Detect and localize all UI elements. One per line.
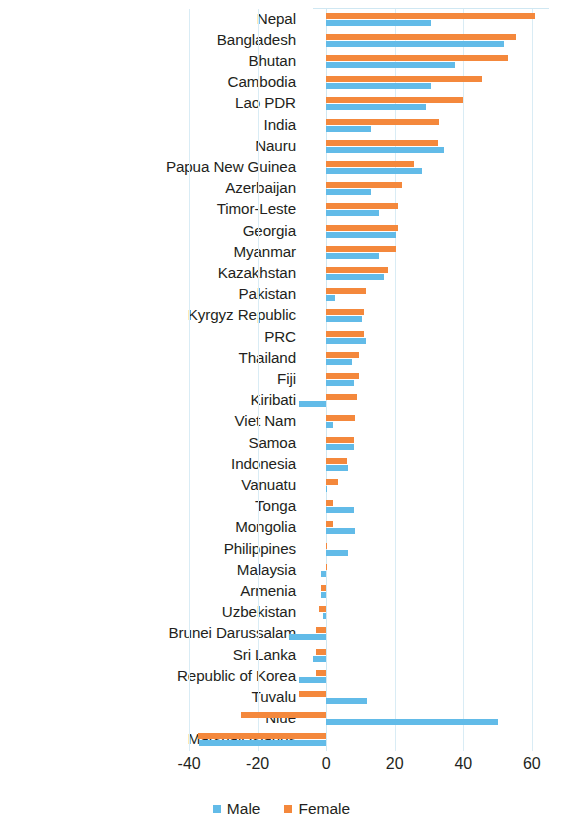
male-bar xyxy=(313,656,327,662)
female-bar xyxy=(326,76,482,82)
male-bar xyxy=(326,274,384,280)
male-bar xyxy=(326,359,352,365)
male-bar xyxy=(326,338,365,344)
male-bar xyxy=(323,613,326,619)
male-bar xyxy=(326,189,371,195)
legend-item[interactable]: Male xyxy=(213,800,261,818)
male-bar xyxy=(326,210,379,216)
female-bar xyxy=(326,97,463,103)
bar-row xyxy=(172,733,549,747)
female-bar xyxy=(326,543,327,549)
bar-row xyxy=(172,521,549,535)
male-bar xyxy=(326,41,504,47)
female-bar xyxy=(326,521,333,527)
bar-row xyxy=(172,76,549,90)
male-bar xyxy=(326,232,396,238)
male-bar xyxy=(299,401,326,407)
male-bar xyxy=(326,719,497,725)
female-bar xyxy=(326,373,359,379)
female-bar xyxy=(316,649,326,655)
female-bar xyxy=(326,34,516,40)
bar-row xyxy=(172,352,549,366)
bar-row xyxy=(172,394,549,408)
bar-row xyxy=(172,543,549,557)
female-bar xyxy=(299,691,326,697)
x-axis-tick-label: -40 xyxy=(178,755,201,773)
male-bar xyxy=(326,444,353,450)
bar-row xyxy=(172,331,549,345)
male-bar xyxy=(326,316,362,322)
female-bar xyxy=(326,564,327,570)
female-bar xyxy=(326,288,365,294)
male-bar xyxy=(326,465,348,471)
female-bar xyxy=(326,479,338,485)
bar-row xyxy=(172,119,549,133)
male-bar xyxy=(326,147,444,153)
female-bar xyxy=(316,627,326,633)
bar-row xyxy=(172,182,549,196)
female-bar xyxy=(326,458,347,464)
legend-label: Male xyxy=(227,800,261,818)
female-bar xyxy=(316,670,326,676)
bar-row xyxy=(172,649,549,663)
female-bar xyxy=(326,119,439,125)
bar-row xyxy=(172,161,549,175)
chart-legend: MaleFemale xyxy=(0,800,563,818)
male-bar xyxy=(321,571,326,577)
female-bar xyxy=(326,331,364,337)
bar-row xyxy=(172,670,549,684)
bar-row xyxy=(172,691,549,705)
male-bar xyxy=(326,168,422,174)
female-bar xyxy=(326,394,357,400)
male-bar xyxy=(326,422,333,428)
x-axis-tick-label: 0 xyxy=(322,755,331,773)
female-bar xyxy=(326,161,413,167)
male-bar xyxy=(326,104,425,110)
male-bar xyxy=(326,62,455,68)
value-axis: -40-200204060 xyxy=(313,755,549,781)
female-bar xyxy=(326,203,398,209)
female-bar xyxy=(326,437,353,443)
bar-row xyxy=(172,309,549,323)
male-bar xyxy=(299,677,326,683)
female-bar xyxy=(326,246,396,252)
female-bar xyxy=(319,606,326,612)
male-bar xyxy=(326,550,348,556)
female-bar xyxy=(326,55,508,61)
female-bar xyxy=(326,267,388,273)
plot-inner xyxy=(172,9,549,751)
female-bar xyxy=(321,585,326,591)
bar-row xyxy=(172,500,549,514)
male-bar xyxy=(326,253,379,259)
bar-row xyxy=(172,627,549,641)
female-bar xyxy=(241,712,327,718)
bar-row xyxy=(172,712,549,726)
bar-row xyxy=(172,458,549,472)
male-bar xyxy=(326,528,355,534)
male-bar xyxy=(326,380,353,386)
x-axis-tick-label: 40 xyxy=(454,755,472,773)
bar-row xyxy=(172,564,549,578)
bar-row xyxy=(172,140,549,154)
plot-area xyxy=(313,8,549,751)
female-bar xyxy=(326,13,535,19)
male-bar xyxy=(326,83,431,89)
female-bar xyxy=(326,140,437,146)
bar-row xyxy=(172,97,549,111)
bar-row xyxy=(172,288,549,302)
female-legend-swatch xyxy=(284,805,292,813)
bar-row xyxy=(172,225,549,239)
male-bar xyxy=(321,592,326,598)
bar-row xyxy=(172,246,549,260)
male-legend-swatch xyxy=(213,805,221,813)
bar-row xyxy=(172,585,549,599)
x-axis-tick-label: 20 xyxy=(386,755,404,773)
legend-item[interactable]: Female xyxy=(284,800,350,818)
female-bar xyxy=(326,415,355,421)
diverging-bar-chart: NepalBangladeshBhutanCambodiaLao PDRIndi… xyxy=(0,0,563,839)
male-bar xyxy=(326,486,327,492)
male-bar xyxy=(326,126,371,132)
bar-row xyxy=(172,267,549,281)
male-bar xyxy=(326,20,431,26)
x-axis-tick-label: -20 xyxy=(246,755,269,773)
